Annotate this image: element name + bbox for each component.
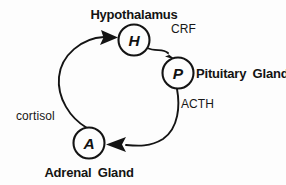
cortisol-arrow-path <box>59 37 104 128</box>
pituitary-letter: P <box>173 65 184 82</box>
node-pituitary[interactable]: P <box>163 58 194 89</box>
label-cortisol: cortisol <box>16 109 55 123</box>
label-pituitary-gland: Pituitary Gland <box>196 66 286 81</box>
label-crf: CRF <box>171 22 196 36</box>
label-acth: ACTH <box>181 97 214 111</box>
adrenal-letter: A <box>82 135 94 152</box>
label-adrenal-gland: Adrenal Gland <box>44 165 134 180</box>
acth-arrow-path <box>126 89 178 146</box>
diagram-canvas: H P A Hypothalamus Pituitary Gland Adren… <box>0 0 286 185</box>
edge-cortisol <box>59 30 118 128</box>
node-adrenal[interactable]: A <box>74 128 105 159</box>
hypothalamus-letter: H <box>128 32 140 49</box>
label-hypothalamus: Hypothalamus <box>90 7 177 22</box>
hpa-axis-diagram: H P A Hypothalamus Pituitary Gland Adren… <box>0 0 286 185</box>
edge-acth <box>106 89 178 152</box>
node-hypothalamus[interactable]: H <box>119 25 150 56</box>
crf-arrow-path <box>147 48 168 53</box>
acth-arrow-head <box>106 137 126 152</box>
